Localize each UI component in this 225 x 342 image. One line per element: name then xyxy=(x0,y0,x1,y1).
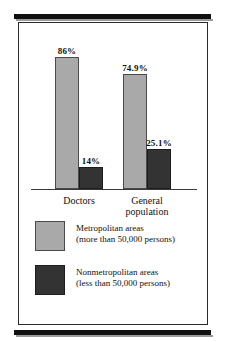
legend-swatch-nonmetropolitan xyxy=(35,265,65,295)
top-rule-shadow xyxy=(16,19,213,21)
legend-label-nonmetropolitan-line1: Nonmetropolitan areas xyxy=(76,267,170,278)
x-tick-label-general-population-line1: General xyxy=(131,195,163,206)
x-tick-label-general-population-line2: population xyxy=(126,206,169,217)
top-rule xyxy=(14,14,211,19)
legend-item-nonmetropolitan: Nonmetropolitan areas (less than 50,000 … xyxy=(35,265,170,295)
legend-label-metropolitan-line2: (more than 50,000 persons) xyxy=(76,234,175,245)
bar-general-population-nonmetropolitan xyxy=(147,149,171,189)
bar-general-population-metropolitan xyxy=(123,74,147,189)
legend-label-metropolitan: Metropolitan areas (more than 50,000 per… xyxy=(76,221,175,245)
legend-label-metropolitan-line1: Metropolitan areas xyxy=(76,223,175,234)
bottom-rule-shadow xyxy=(16,335,213,337)
legend-label-nonmetropolitan: Nonmetropolitan areas (less than 50,000 … xyxy=(76,265,170,289)
bar-doctors-nonmetropolitan xyxy=(79,167,103,189)
legend-item-metropolitan: Metropolitan areas (more than 50,000 per… xyxy=(35,221,175,251)
bar-label-general-population-nonmetropolitan: 25.1% xyxy=(135,138,183,148)
figure-frame: 86% 14% 74.9% 25.1% Doctors General popu… xyxy=(18,22,208,325)
x-tick-label-doctors-line1: Doctors xyxy=(63,195,95,206)
bar-label-doctors-nonmetropolitan: 14% xyxy=(69,156,113,166)
x-tick-label-general-population: General population xyxy=(107,195,187,217)
x-axis-line xyxy=(31,189,197,190)
legend-label-nonmetropolitan-line2: (less than 50,000 persons) xyxy=(76,278,170,289)
bar-label-doctors-metropolitan: 86% xyxy=(45,46,89,56)
legend-swatch-metropolitan xyxy=(35,221,65,251)
bar-doctors-metropolitan xyxy=(55,57,79,189)
bar-chart-plot: 86% 14% 74.9% 25.1% Doctors General popu… xyxy=(19,23,207,213)
bar-label-general-population-metropolitan: 74.9% xyxy=(111,63,159,73)
